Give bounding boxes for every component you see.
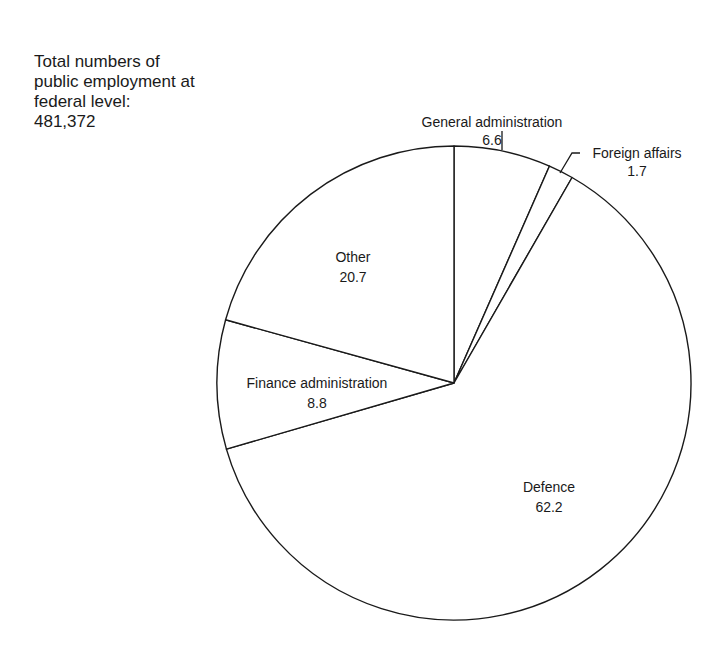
- value-foreign-affairs: 1.7: [627, 163, 647, 179]
- value-other: 20.7: [339, 269, 366, 285]
- label-finance-administration: Finance administration: [247, 375, 388, 391]
- label-general-administration: General administration: [422, 114, 563, 130]
- label-defence: Defence: [523, 479, 575, 495]
- foreign-affairs-leader-line: [560, 153, 580, 173]
- label-other: Other: [335, 249, 370, 265]
- label-foreign-affairs: Foreign affairs: [592, 145, 681, 161]
- value-defence: 62.2: [535, 499, 562, 515]
- value-general-administration: 6.6: [482, 132, 502, 148]
- pie-chart: General administration 6.6 Foreign affai…: [0, 0, 725, 647]
- value-finance-administration: 8.8: [307, 395, 327, 411]
